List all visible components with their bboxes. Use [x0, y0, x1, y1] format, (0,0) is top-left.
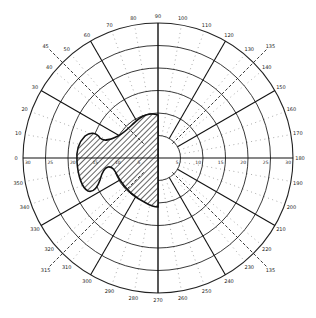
- angle-label-320: 320: [44, 246, 54, 252]
- angle-label-30: 30: [32, 84, 38, 90]
- angle-label-280: 280: [129, 295, 139, 301]
- angle-label-190: 190: [293, 180, 303, 186]
- dotted-meridian-250: [166, 179, 204, 285]
- angle-label-290: 290: [105, 288, 115, 294]
- angle-label-330: 330: [30, 226, 40, 232]
- angle-label-120: 120: [224, 32, 234, 38]
- ring-label-left-15: 15: [93, 160, 99, 165]
- angle-label-20: 20: [21, 106, 27, 112]
- dotted-meridian-200: [179, 166, 285, 204]
- perimetry-chart: 0102030405060708090100110120130140150160…: [0, 0, 316, 318]
- dotted-meridian-260: [162, 180, 182, 291]
- ring-label-right-5: 5: [176, 160, 179, 165]
- dotted-meridian-140: [175, 71, 261, 143]
- angle-label-160: 160: [287, 106, 297, 112]
- angle-label-250: 250: [202, 288, 212, 294]
- angle-label-200: 200: [287, 204, 297, 210]
- ring-label-left-5: 5: [138, 160, 141, 165]
- angle-label-90: 90: [155, 13, 161, 19]
- angle-label-170: 170: [293, 130, 303, 136]
- dashed-label-225: 135: [266, 267, 276, 273]
- dotted-meridian-100: [162, 25, 182, 136]
- angle-label-100: 100: [178, 15, 188, 21]
- angle-label-270: 270: [153, 297, 163, 303]
- ring-label-left-10: 10: [115, 160, 121, 165]
- angle-label-60: 60: [84, 32, 90, 38]
- angle-label-310: 310: [62, 264, 72, 270]
- angle-label-50: 50: [64, 46, 70, 52]
- angle-label-110: 110: [202, 22, 212, 28]
- ring-label-right-10: 10: [195, 160, 201, 165]
- angle-label-300: 300: [82, 278, 92, 284]
- dashed-label-45: 45: [42, 43, 48, 49]
- ring-label-left-25: 25: [48, 160, 54, 165]
- angle-label-80: 80: [130, 15, 136, 21]
- angle-label-10: 10: [15, 130, 21, 136]
- angle-label-70: 70: [106, 22, 112, 28]
- angle-label-350: 350: [13, 180, 23, 186]
- angle-label-230: 230: [245, 264, 255, 270]
- angle-label-220: 220: [262, 246, 272, 252]
- angle-label-130: 130: [245, 46, 255, 52]
- dashed-label-315: 315: [41, 267, 51, 273]
- dotted-meridian-220: [175, 172, 261, 244]
- angle-label-0: 0: [14, 155, 17, 161]
- ring-label-left-20: 20: [70, 160, 76, 165]
- dashed-label-135: 135: [266, 43, 276, 49]
- dotted-meridian-170: [180, 135, 291, 155]
- ring-label-right-20: 20: [240, 160, 246, 165]
- angle-label-140: 140: [262, 64, 272, 70]
- angle-label-260: 260: [178, 295, 188, 301]
- dotted-meridian-110: [166, 31, 204, 137]
- angle-label-210: 210: [276, 226, 286, 232]
- angle-label-340: 340: [20, 204, 30, 210]
- angle-label-150: 150: [276, 84, 286, 90]
- dotted-meridian-160: [179, 112, 285, 150]
- angle-label-40: 40: [46, 64, 52, 70]
- ring-label-right-30: 30: [285, 160, 291, 165]
- ring-label-right-15: 15: [218, 160, 224, 165]
- dotted-meridian-130: [172, 55, 244, 141]
- ring-label-right-25: 25: [263, 160, 269, 165]
- angle-label-180: 180: [295, 155, 305, 161]
- angle-label-240: 240: [224, 278, 234, 284]
- ring-label-left-30: 30: [25, 160, 31, 165]
- dotted-meridian-230: [172, 175, 244, 261]
